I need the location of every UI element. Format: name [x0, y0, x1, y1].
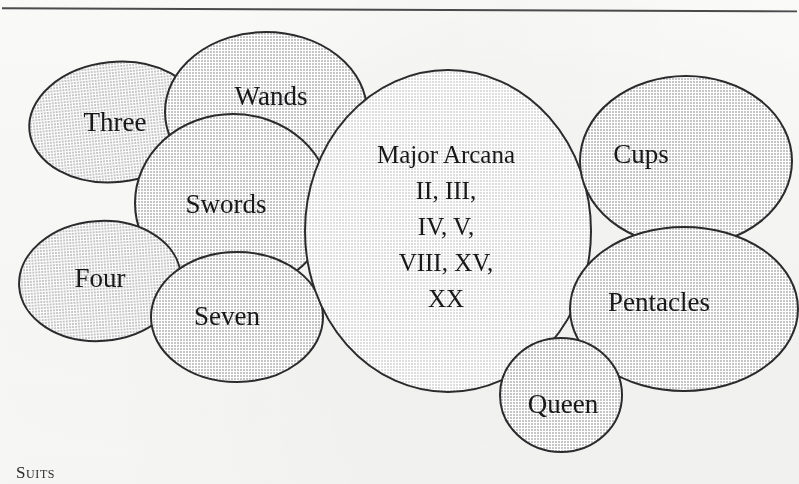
- ellipse-label-cups: Cups: [613, 139, 669, 169]
- label-line: Cups: [613, 139, 669, 169]
- ellipse-label-queen: Queen: [528, 389, 599, 419]
- label-line: Seven: [194, 301, 260, 331]
- ellipse-cups[interactable]: [580, 76, 792, 246]
- scanned-page: ThreeWandsSwordsFourSevenMajor ArcanaII,…: [0, 0, 799, 484]
- ellipse-diagram: ThreeWandsSwordsFourSevenMajor ArcanaII,…: [0, 0, 799, 484]
- label-line: Swords: [185, 189, 266, 219]
- label-line: Four: [74, 263, 125, 293]
- label-line: Major Arcana: [377, 141, 515, 168]
- ellipse-label-wands: Wands: [235, 81, 308, 111]
- ellipse-label-three: Three: [84, 107, 147, 137]
- ellipse-layer: [15, 32, 798, 452]
- ellipse-label-seven: Seven: [194, 301, 260, 331]
- label-line: VIII, XV,: [399, 249, 494, 276]
- label-line: XX: [428, 285, 464, 312]
- label-line: II, III,: [416, 177, 476, 204]
- label-line: IV, V,: [418, 213, 474, 240]
- ellipse-label-swords: Swords: [185, 189, 266, 219]
- ellipse-label-pentacles: Pentacles: [608, 287, 710, 317]
- label-line: Three: [84, 107, 147, 137]
- label-line: Wands: [235, 81, 308, 111]
- label-line: Queen: [528, 389, 599, 419]
- figure-caption: Suits: [16, 463, 336, 484]
- caption-label: Suits: [16, 463, 336, 483]
- ellipse-label-four: Four: [74, 263, 125, 293]
- label-line: Pentacles: [608, 287, 710, 317]
